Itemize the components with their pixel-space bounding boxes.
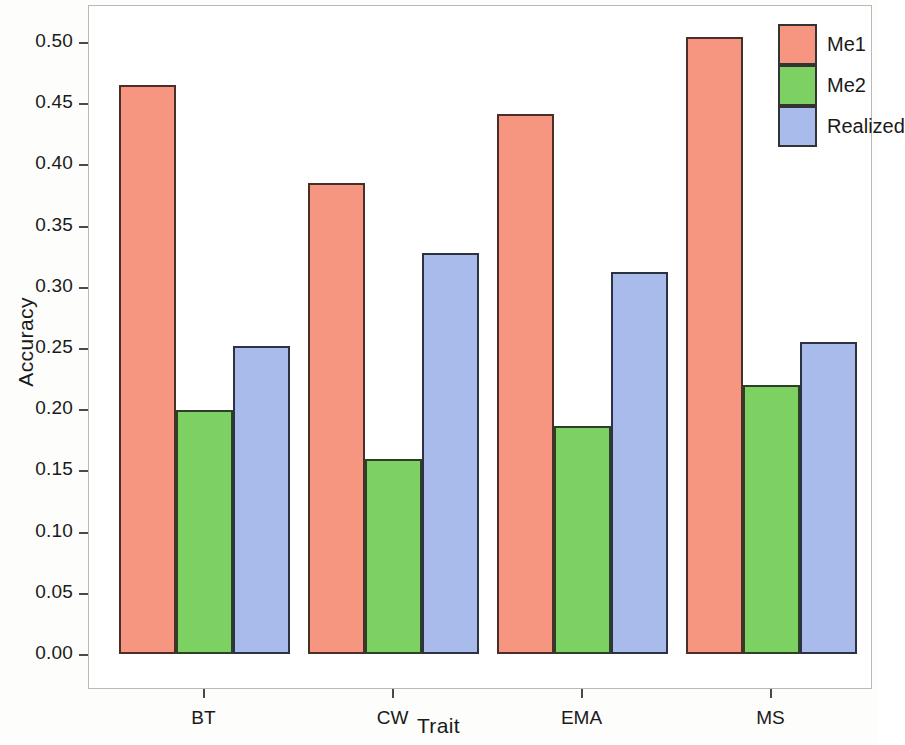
legend-swatch-me2	[778, 65, 817, 106]
legend-swatch-me1	[778, 24, 817, 65]
x-tick-mark	[770, 689, 772, 698]
legend: Me1Me2Realized	[778, 24, 905, 147]
plot-area	[89, 6, 871, 688]
y-tick-label: 0.15	[35, 458, 73, 480]
x-tick-label: EMA	[522, 707, 642, 729]
y-tick-label: 0.00	[35, 642, 73, 664]
bar-cw-me2	[365, 459, 422, 654]
x-tick-mark	[581, 689, 583, 698]
plot-frame	[88, 5, 872, 689]
y-tick-label: 0.25	[35, 336, 73, 358]
y-tick-label: 0.10	[35, 520, 73, 542]
y-tick-label: 0.35	[35, 214, 73, 236]
legend-label: Me1	[827, 33, 866, 56]
y-tick-label: 0.30	[35, 275, 73, 297]
y-tick-mark	[79, 226, 88, 228]
y-tick-label: 0.50	[35, 30, 73, 52]
bar-cw-realized	[422, 253, 479, 654]
bar-bt-realized	[233, 346, 290, 654]
x-tick-label: BT	[144, 707, 264, 729]
bar-ms-me1	[686, 37, 743, 654]
y-tick-label: 0.45	[35, 91, 73, 113]
y-tick-label: 0.05	[35, 581, 73, 603]
y-tick-mark	[79, 409, 88, 411]
y-tick-mark	[79, 348, 88, 350]
bar-bt-me2	[176, 410, 233, 654]
legend-item-me2: Me2	[778, 65, 905, 106]
y-tick-label: 0.40	[35, 152, 73, 174]
y-tick-mark	[79, 103, 88, 105]
y-tick-mark	[79, 593, 88, 595]
bar-cw-me1	[308, 183, 365, 654]
legend-swatch-realized	[778, 106, 817, 147]
legend-label: Realized	[827, 115, 905, 138]
y-tick-mark	[79, 42, 88, 44]
x-tick-label: CW	[333, 707, 453, 729]
bar-ms-me2	[743, 385, 800, 654]
y-tick-mark	[79, 654, 88, 656]
legend-item-me1: Me1	[778, 24, 905, 65]
y-tick-mark	[79, 164, 88, 166]
bar-bt-me1	[119, 85, 176, 654]
legend-item-realized: Realized	[778, 106, 905, 147]
x-tick-mark	[203, 689, 205, 698]
x-tick-label: MS	[711, 707, 831, 729]
bar-ms-realized	[800, 342, 857, 654]
y-tick-label: 0.20	[35, 397, 73, 419]
y-tick-mark	[79, 470, 88, 472]
bar-ema-realized	[611, 272, 668, 654]
bar-ema-me2	[554, 426, 611, 654]
legend-label: Me2	[827, 74, 866, 97]
bar-ema-me1	[497, 114, 554, 654]
y-tick-mark	[79, 532, 88, 534]
y-tick-mark	[79, 287, 88, 289]
x-tick-mark	[392, 689, 394, 698]
